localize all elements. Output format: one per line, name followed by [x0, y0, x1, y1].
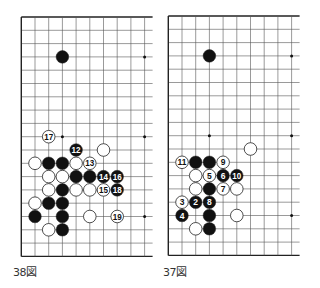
board-grid-38: 1712131416151819: [0, 0, 160, 288]
diagram-caption-37: 37図: [163, 263, 187, 279]
white-stone: [189, 183, 202, 196]
black-stone: [203, 183, 216, 196]
black-stone: 8: [203, 196, 216, 209]
black-stone: [56, 184, 69, 197]
white-stone: 5: [203, 169, 216, 182]
white-stone: [231, 209, 244, 222]
white-stone: [42, 184, 55, 197]
black-stone: [84, 170, 97, 183]
white-stone: 9: [217, 156, 230, 169]
white-stone: [97, 144, 110, 157]
white-stone: 19: [111, 210, 124, 223]
star-point-icon: [61, 135, 64, 138]
white-stone: [42, 170, 55, 183]
move-number: 7: [221, 184, 226, 194]
white-stone: [29, 157, 42, 170]
black-stone: [203, 156, 216, 169]
black-stone: [70, 170, 83, 183]
star-point-icon: [143, 135, 146, 138]
move-number: 12: [72, 145, 81, 155]
white-stone: [231, 183, 244, 196]
white-stone: [84, 184, 97, 197]
black-stone: [29, 210, 42, 223]
move-number: 4: [180, 211, 185, 221]
move-number: 19: [113, 212, 122, 222]
black-stone: [56, 224, 69, 237]
star-point-icon: [290, 214, 293, 217]
black-stone: [56, 197, 69, 210]
black-stone: [203, 223, 216, 236]
white-stone: 13: [84, 157, 97, 170]
star-point-icon: [208, 134, 211, 137]
move-number: 10: [232, 171, 241, 181]
black-stone: 14: [97, 170, 110, 183]
white-stone: 15: [97, 184, 110, 197]
white-stone: [42, 224, 55, 237]
white-stone: [70, 157, 83, 170]
white-stone: [244, 143, 257, 156]
move-number: 9: [221, 157, 226, 167]
move-number: 2: [193, 197, 198, 207]
black-stone: [42, 157, 55, 170]
white-stone: [56, 170, 69, 183]
white-stone: [29, 197, 42, 210]
white-stone: 7: [217, 183, 230, 196]
black-stone: 18: [111, 184, 124, 197]
black-stone: 16: [111, 170, 124, 183]
white-stone: [189, 169, 202, 182]
move-number: 6: [221, 171, 226, 181]
black-stone: [56, 157, 69, 170]
star-point-icon: [290, 54, 293, 57]
move-number: 16: [113, 172, 122, 182]
white-stone: [84, 210, 97, 223]
diagram-38: 1712131416151819 38図: [0, 0, 160, 288]
move-number: 13: [85, 158, 94, 168]
white-stone: [70, 184, 83, 197]
move-number: 17: [44, 132, 53, 142]
move-number: 3: [180, 197, 185, 207]
white-stone: 3: [176, 196, 189, 209]
star-point-icon: [143, 55, 146, 58]
black-stone: [42, 197, 55, 210]
black-stone: [203, 209, 216, 222]
move-number: 11: [178, 157, 187, 167]
star-point-icon: [290, 134, 293, 137]
diagram-37: 119561073284 37図: [160, 0, 320, 288]
white-stone: 11: [176, 156, 189, 169]
black-stone: 12: [70, 144, 83, 157]
black-stone: 10: [231, 169, 244, 182]
black-stone: [56, 210, 69, 223]
star-point-icon: [143, 215, 146, 218]
black-stone: [203, 50, 216, 63]
move-number: 14: [99, 172, 108, 182]
diagram-caption-38: 38図: [13, 263, 37, 279]
white-stone: [189, 223, 202, 236]
move-number: 5: [207, 171, 212, 181]
black-stone: 4: [176, 209, 189, 222]
move-number: 8: [207, 197, 212, 207]
board-grid-37: 119561073284: [160, 0, 320, 288]
black-stone: [189, 156, 202, 169]
move-number: 18: [113, 185, 122, 195]
black-stone: [56, 51, 69, 64]
black-stone: 6: [217, 169, 230, 182]
white-stone: 17: [42, 130, 55, 143]
move-number: 15: [99, 185, 108, 195]
black-stone: 2: [189, 196, 202, 209]
